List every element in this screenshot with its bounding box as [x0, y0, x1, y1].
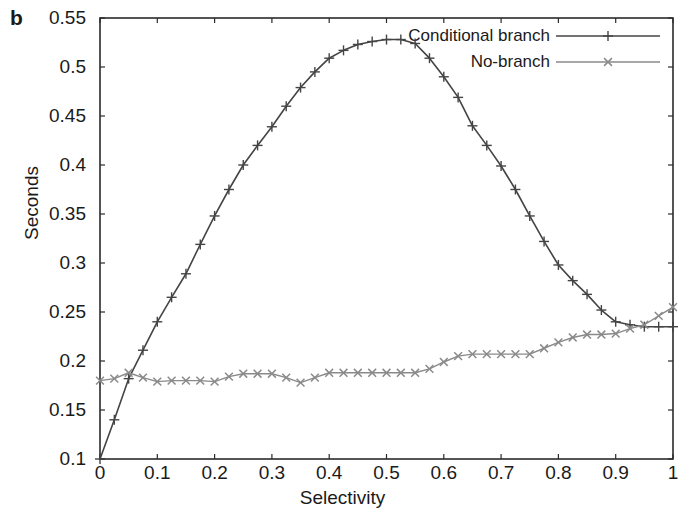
chart-figure: b Seconds Selectivity 0.10.150.20.250.30… [0, 0, 685, 519]
series-line [100, 307, 673, 382]
plot-canvas [0, 0, 685, 519]
plot-frame [100, 18, 673, 459]
series-no-branch [96, 303, 677, 386]
series-line [100, 40, 673, 459]
legend-sample-0 [556, 31, 660, 41]
series-conditional-branch [95, 35, 678, 464]
legend-sample-1 [556, 58, 660, 66]
